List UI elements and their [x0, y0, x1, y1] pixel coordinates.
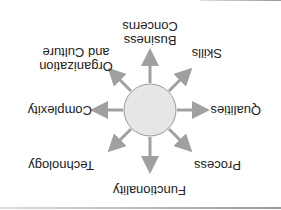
node-business-concerns: Business Concerns [114, 19, 186, 47]
node-functionality: Functionality [114, 183, 186, 197]
center-circle [124, 84, 176, 136]
node-organization-culture: Organization and Culture [31, 45, 121, 73]
arrow-up-left [169, 129, 186, 146]
radial-diagram: Functionality Technology Process Complex… [0, 0, 281, 210]
node-organization-culture-line2: and Culture [31, 45, 121, 59]
node-business-concerns-line1: Business [114, 33, 186, 47]
arrow-down-right [114, 74, 131, 91]
arrow-down-left [169, 74, 186, 91]
node-complexity: Complexity [28, 103, 92, 117]
node-process: Process [194, 158, 241, 172]
arrow-up-right [114, 129, 131, 146]
node-skills: Skills [192, 46, 222, 60]
node-organization-culture-line1: Organization [31, 59, 121, 73]
node-qualities: Qualities [210, 103, 261, 117]
node-business-concerns-line2: Concerns [114, 19, 186, 33]
node-technology: Technology [28, 158, 94, 172]
